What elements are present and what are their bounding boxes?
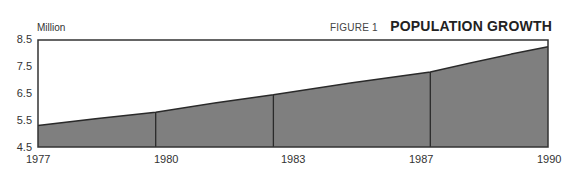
area-fill xyxy=(38,47,548,147)
x-tick-label: 1980 xyxy=(154,153,178,165)
x-tick-label: 1983 xyxy=(281,153,305,165)
x-tick-label: 1987 xyxy=(409,153,433,165)
x-tick-label: 1977 xyxy=(26,153,50,165)
x-tick-label: 1990 xyxy=(537,153,561,165)
